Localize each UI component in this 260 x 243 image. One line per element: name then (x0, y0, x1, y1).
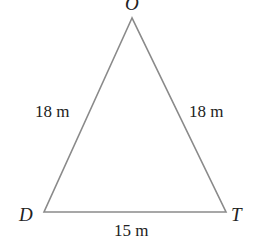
side-label-dt: 15 m (114, 222, 148, 239)
vertex-label-d: D (19, 205, 33, 224)
side-label-od: 18 m (35, 103, 69, 120)
side-label-ot: 18 m (189, 103, 223, 120)
vertex-label-t: T (231, 205, 242, 224)
vertex-label-o: O (125, 0, 139, 13)
triangle-figure (0, 0, 260, 243)
